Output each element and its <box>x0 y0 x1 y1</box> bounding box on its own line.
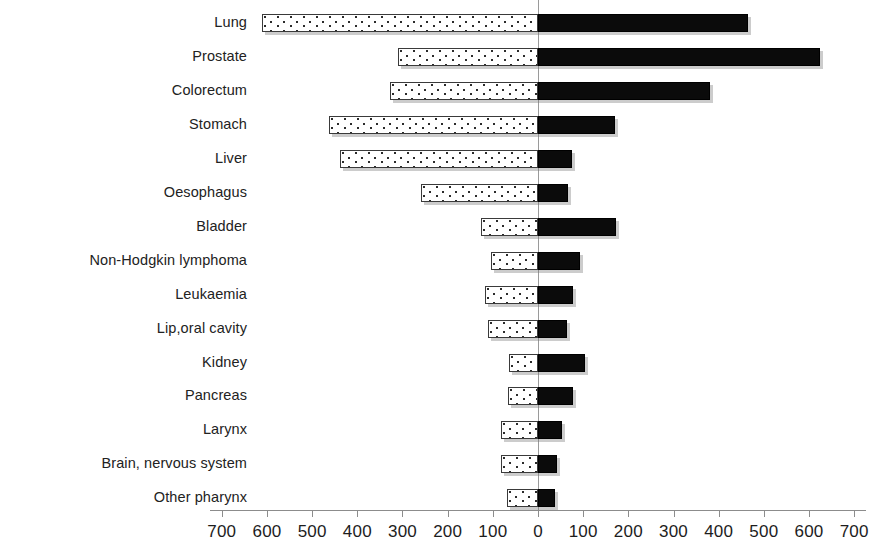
bar-left-7 <box>491 252 538 270</box>
x-tick <box>854 511 855 517</box>
bar-left-13 <box>501 455 538 473</box>
plot-area <box>0 0 864 510</box>
bar-left-4 <box>340 150 538 168</box>
x-tick <box>628 511 629 517</box>
x-tick-label: 700 <box>824 523 873 540</box>
bar-right-10 <box>538 354 585 372</box>
bar-left-8 <box>485 286 538 304</box>
x-tick <box>357 511 358 517</box>
bar-right-9 <box>538 320 567 338</box>
bar-right-13 <box>538 455 557 473</box>
bar-right-5 <box>538 184 568 202</box>
x-tick <box>764 511 765 517</box>
x-tick <box>402 511 403 517</box>
bar-left-6 <box>481 218 538 236</box>
bar-right-6 <box>538 218 616 236</box>
x-tick <box>583 511 584 517</box>
bar-left-12 <box>501 421 538 439</box>
bar-left-14 <box>507 489 538 507</box>
bar-right-7 <box>538 252 580 270</box>
x-tick <box>222 511 223 517</box>
bar-right-14 <box>538 489 555 507</box>
bar-right-2 <box>538 82 710 100</box>
bar-left-2 <box>390 82 538 100</box>
bar-right-4 <box>538 150 572 168</box>
x-tick <box>719 511 720 517</box>
bar-left-10 <box>509 354 538 372</box>
x-tick <box>312 511 313 517</box>
x-tick <box>809 511 810 517</box>
x-tick <box>493 511 494 517</box>
bar-right-3 <box>538 116 615 134</box>
bar-left-11 <box>508 387 538 405</box>
bar-left-0 <box>262 14 538 32</box>
x-tick <box>538 511 539 517</box>
bar-right-0 <box>538 14 748 32</box>
bar-left-5 <box>421 184 538 202</box>
bar-right-11 <box>538 387 573 405</box>
bar-left-3 <box>329 116 538 134</box>
bar-right-1 <box>538 48 820 66</box>
x-tick <box>448 511 449 517</box>
bar-left-1 <box>398 48 538 66</box>
x-tick <box>267 511 268 517</box>
bar-right-8 <box>538 286 573 304</box>
bar-right-12 <box>538 421 562 439</box>
bar-left-9 <box>488 320 538 338</box>
x-tick <box>674 511 675 517</box>
